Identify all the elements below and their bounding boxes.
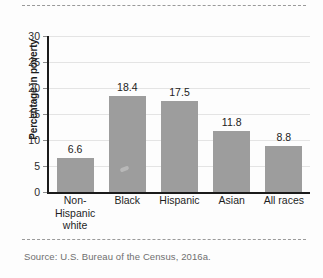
x-axis-category-label: Non-Hispanicwhite <box>49 194 101 232</box>
top-dashed-rule <box>22 5 306 6</box>
y-axis-tick <box>43 114 47 115</box>
figure-panel: Percentage in poverty 051015202530 6.618… <box>0 0 323 278</box>
y-axis-tick <box>43 62 47 63</box>
y-axis-tick-label: 0 <box>34 186 40 198</box>
y-axis-tick <box>43 192 47 193</box>
x-axis-category-label: Hispanic <box>153 194 205 207</box>
bar-value-label: 8.8 <box>277 131 292 143</box>
bar-slot: 17.5 <box>161 36 198 192</box>
bar-value-label: 17.5 <box>169 86 189 98</box>
bar[interactable] <box>265 146 302 192</box>
category-label-line: Non-Hispanic <box>49 194 101 219</box>
y-axis-tick <box>43 36 47 37</box>
category-label-line: Hispanic <box>153 194 205 207</box>
bar-series: 6.618.417.511.88.8 <box>49 36 310 192</box>
category-label-line: Asian <box>206 194 258 207</box>
y-axis-tick <box>43 166 47 167</box>
bar-slot: 11.8 <box>213 36 250 192</box>
bar-slot: 6.6 <box>57 36 94 192</box>
plot-area: 051015202530 6.618.417.511.88.8 <box>47 36 310 192</box>
y-axis-tick-label: 10 <box>28 134 40 146</box>
bar-value-label: 18.4 <box>117 81 137 93</box>
bar[interactable] <box>57 158 94 192</box>
x-axis-category-label: All races <box>258 194 310 207</box>
y-axis-tick <box>43 140 47 141</box>
y-axis-tick-label: 20 <box>28 82 40 94</box>
bar-value-label: 6.6 <box>68 143 83 155</box>
bar-slot: 8.8 <box>265 36 302 192</box>
y-axis-tick-label: 5 <box>34 160 40 172</box>
y-axis-tick <box>43 88 47 89</box>
y-axis-tick-label: 25 <box>28 56 40 68</box>
category-label-line: All races <box>258 194 310 207</box>
bar[interactable] <box>213 131 250 192</box>
category-label-line: white <box>49 219 101 232</box>
bottom-dashed-rule <box>22 239 306 240</box>
x-axis-category-label: Asian <box>206 194 258 207</box>
bar[interactable] <box>109 96 146 192</box>
category-label-line: Black <box>101 194 153 207</box>
x-axis-category-label: Black <box>101 194 153 207</box>
y-axis-tick-label: 30 <box>28 30 40 42</box>
bar-value-label: 11.8 <box>222 116 242 128</box>
y-axis-tick-label: 15 <box>28 108 40 120</box>
x-axis-category-labels: Non-HispanicwhiteBlackHispanicAsianAll r… <box>49 194 310 230</box>
bar[interactable] <box>161 101 198 192</box>
source-note: Source: U.S. Bureau of the Census, 2016a… <box>24 251 211 262</box>
bar-chart: Percentage in poverty 051015202530 6.618… <box>0 14 323 232</box>
